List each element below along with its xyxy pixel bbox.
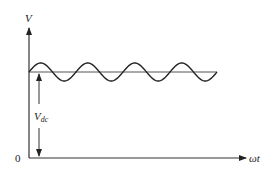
waveform-diagram: V ωt 0 Vdc	[0, 0, 276, 180]
x-axis-label: ωt	[249, 152, 261, 164]
y-axis-label: V	[25, 12, 33, 24]
vdc-label: Vdc	[34, 110, 49, 124]
origin-label: 0	[15, 152, 21, 164]
